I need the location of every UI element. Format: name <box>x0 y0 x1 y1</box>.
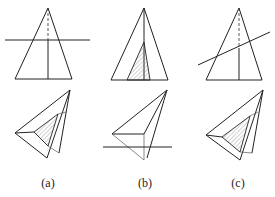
diagram-canvas <box>0 0 275 197</box>
cutting-plane-oblique <box>198 32 270 65</box>
panel-c-front-view <box>198 8 270 80</box>
panel-c-label: (c) <box>231 176 244 191</box>
panel-c-plan-view <box>206 90 263 160</box>
panel-a-label: (a) <box>41 176 54 191</box>
panel-a-front-view <box>5 8 90 79</box>
panel-b-front-view <box>111 8 168 80</box>
panel-b-plan-view <box>103 90 172 160</box>
panel-a-plan-view <box>15 90 70 158</box>
panel-b-label: (b) <box>138 176 152 191</box>
